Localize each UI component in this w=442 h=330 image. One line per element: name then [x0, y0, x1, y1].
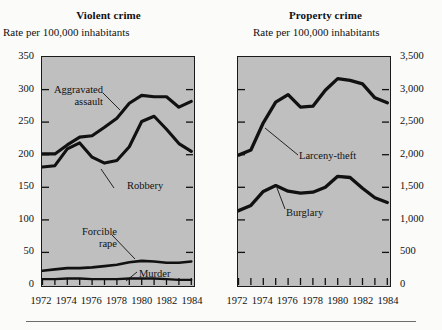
- y-axis-labels-violent-crime: 050100150200250300350: [0, 56, 38, 287]
- y-tick-label: 50: [24, 246, 35, 257]
- x-axis-labels-violent-crime: 1972197419761978198019821984: [41, 296, 195, 310]
- panel-property-crime: Property crime Rate per 100,000 inhabita…: [221, 0, 442, 330]
- x-tick-label: 1972: [227, 296, 248, 307]
- panel-title-property-crime: Property crime: [215, 9, 436, 21]
- leader-line-burglary: [277, 188, 285, 209]
- y-tick-label: 1,000: [400, 214, 424, 225]
- x-tick-label: 1972: [31, 296, 52, 307]
- y-tick-label: 2,500: [400, 116, 424, 127]
- axis-caption-violent-crime: Rate per 100,000 inhabitants: [3, 26, 129, 38]
- x-tick-label: 1974: [56, 296, 77, 307]
- leader-line-aggravated-assault: [103, 93, 120, 110]
- series-label-murder: Murder: [139, 268, 171, 279]
- series-label-forcible-rape: Forcible rape: [82, 226, 117, 249]
- series-label-aggravated-assault-line2: assault: [54, 96, 103, 108]
- x-tick-label: 1982: [156, 296, 177, 307]
- footer-rule: [26, 321, 416, 322]
- y-tick-label: 350: [18, 51, 34, 62]
- series-label-burglary: Burglary: [286, 207, 323, 218]
- series-label-aggravated-assault: Aggravated assault: [54, 84, 103, 107]
- x-tick-label: 1982: [352, 296, 373, 307]
- y-tick-label: 250: [18, 116, 34, 127]
- y-tick-label: 100: [18, 214, 34, 225]
- x-axis-labels-property-crime: 1972197419761978198019821984: [237, 296, 391, 310]
- property-crime-lines: [238, 57, 389, 285]
- series-line-larceny-theft: [239, 79, 388, 156]
- series-label-larceny-theft: Larceny-theft: [299, 150, 356, 161]
- y-tick-label: 0: [29, 279, 34, 290]
- x-tick-label: 1980: [327, 296, 348, 307]
- series-label-aggravated-assault-line1: Aggravated: [54, 84, 103, 95]
- x-tick-label: 1984: [378, 296, 399, 307]
- series-line-robbery: [43, 116, 192, 167]
- y-axis-ticks-inner: [238, 90, 389, 253]
- panel-violent-crime: Violent crime Rate per 100,000 inhabitan…: [0, 0, 221, 330]
- y-tick-label: 0: [400, 279, 405, 290]
- y-axis-ticks-inner: [42, 90, 193, 253]
- x-tick-label: 1978: [106, 296, 127, 307]
- series-label-forcible-rape-line1: Forcible: [82, 226, 117, 237]
- x-tick-label: 1974: [252, 296, 273, 307]
- x-tick-label: 1980: [131, 296, 152, 307]
- panel-title-violent-crime: Violent crime: [0, 9, 219, 21]
- series-label-robbery: Robbery: [127, 180, 163, 191]
- y-tick-label: 300: [18, 84, 34, 95]
- axis-caption-property-crime: Rate per 100,000 inhabitants: [253, 26, 379, 38]
- y-tick-label: 2,000: [400, 149, 424, 160]
- x-tick-label: 1976: [277, 296, 298, 307]
- plot-area-property-crime: [237, 56, 391, 287]
- y-tick-label: 3,000: [400, 84, 424, 95]
- y-tick-label: 1,500: [400, 181, 424, 192]
- leader-line-larceny-theft: [265, 128, 298, 155]
- y-tick-label: 3,500: [400, 51, 424, 62]
- series-line-burglary: [239, 176, 388, 210]
- y-axis-labels-property-crime: 05001,0001,5002,0002,5003,0003,500: [394, 56, 440, 287]
- x-axis-ticks-inner: [239, 278, 388, 285]
- y-tick-label: 150: [18, 181, 34, 192]
- figure-root: Violent crime Rate per 100,000 inhabitan…: [0, 0, 442, 330]
- x-tick-label: 1978: [302, 296, 323, 307]
- leader-line-robbery: [101, 169, 114, 188]
- x-tick-label: 1984: [182, 296, 203, 307]
- y-tick-label: 200: [18, 149, 34, 160]
- x-tick-label: 1976: [81, 296, 102, 307]
- y-tick-label: 500: [400, 246, 416, 257]
- series-label-forcible-rape-line2: rape: [82, 238, 117, 250]
